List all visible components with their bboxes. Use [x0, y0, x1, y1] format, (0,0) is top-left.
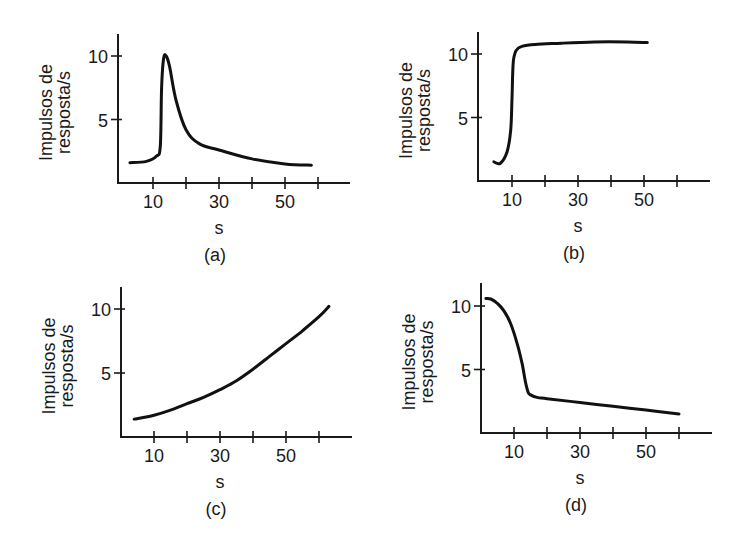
panel-b: 103050510Impulsos deresposta/ss(b) — [396, 32, 710, 263]
y-tick-label: 10 — [448, 45, 468, 65]
panel-a: 103050510Impulsos deresposta/ss(a) — [36, 34, 350, 265]
y-axis-label: Impulsos de — [396, 62, 416, 159]
y-axis-label: Impulsos de — [36, 64, 56, 161]
x-tick-label: 30 — [210, 446, 230, 466]
x-tick-label: 50 — [276, 446, 296, 466]
y-tick-label: 10 — [91, 300, 111, 320]
y-axis-label: resposta/s — [54, 71, 74, 154]
panel-c: 103050510Impulsos deresposta/ss(c) — [39, 287, 352, 519]
response-curve — [130, 55, 312, 166]
x-tick-label: 10 — [504, 442, 524, 462]
x-tick-label: 10 — [144, 446, 164, 466]
y-axis-label: resposta/s — [417, 320, 437, 403]
x-axis-label: s — [216, 472, 225, 492]
panel-caption: (d) — [565, 495, 587, 515]
y-tick-label: 10 — [88, 47, 108, 67]
x-tick-label: 10 — [143, 192, 163, 212]
y-tick-label: 5 — [101, 364, 111, 384]
panel-caption: (a) — [204, 245, 226, 265]
panel-d: 103050510Impulsos deresposta/ss(d) — [399, 283, 712, 515]
y-tick-label: 5 — [461, 361, 471, 381]
x-axis-label: s — [215, 218, 224, 238]
panel-caption: (c) — [206, 499, 227, 519]
y-axis-label: resposta/s — [57, 324, 77, 407]
x-tick-label: 10 — [502, 190, 522, 210]
x-tick-label: 30 — [209, 192, 229, 212]
y-axis-label: Impulsos de — [399, 313, 419, 410]
x-axis-label: s — [576, 468, 585, 488]
response-curve — [486, 298, 679, 414]
response-curve — [494, 42, 647, 164]
response-curve — [134, 306, 329, 419]
y-tick-label: 5 — [458, 109, 468, 129]
x-tick-label: 50 — [634, 190, 654, 210]
y-axis-label: Impulsos de — [39, 317, 59, 414]
x-tick-label: 50 — [275, 192, 295, 212]
y-tick-label: 5 — [98, 111, 108, 131]
y-tick-label: 10 — [451, 297, 471, 317]
x-tick-label: 30 — [570, 442, 590, 462]
x-tick-label: 30 — [568, 190, 588, 210]
x-tick-label: 50 — [636, 442, 656, 462]
x-axis-label: s — [574, 216, 583, 236]
y-axis-label: resposta/s — [414, 69, 434, 152]
panel-caption: (b) — [563, 243, 585, 263]
figure-canvas: 103050510Impulsos deresposta/ss(a) 10305… — [0, 0, 742, 547]
